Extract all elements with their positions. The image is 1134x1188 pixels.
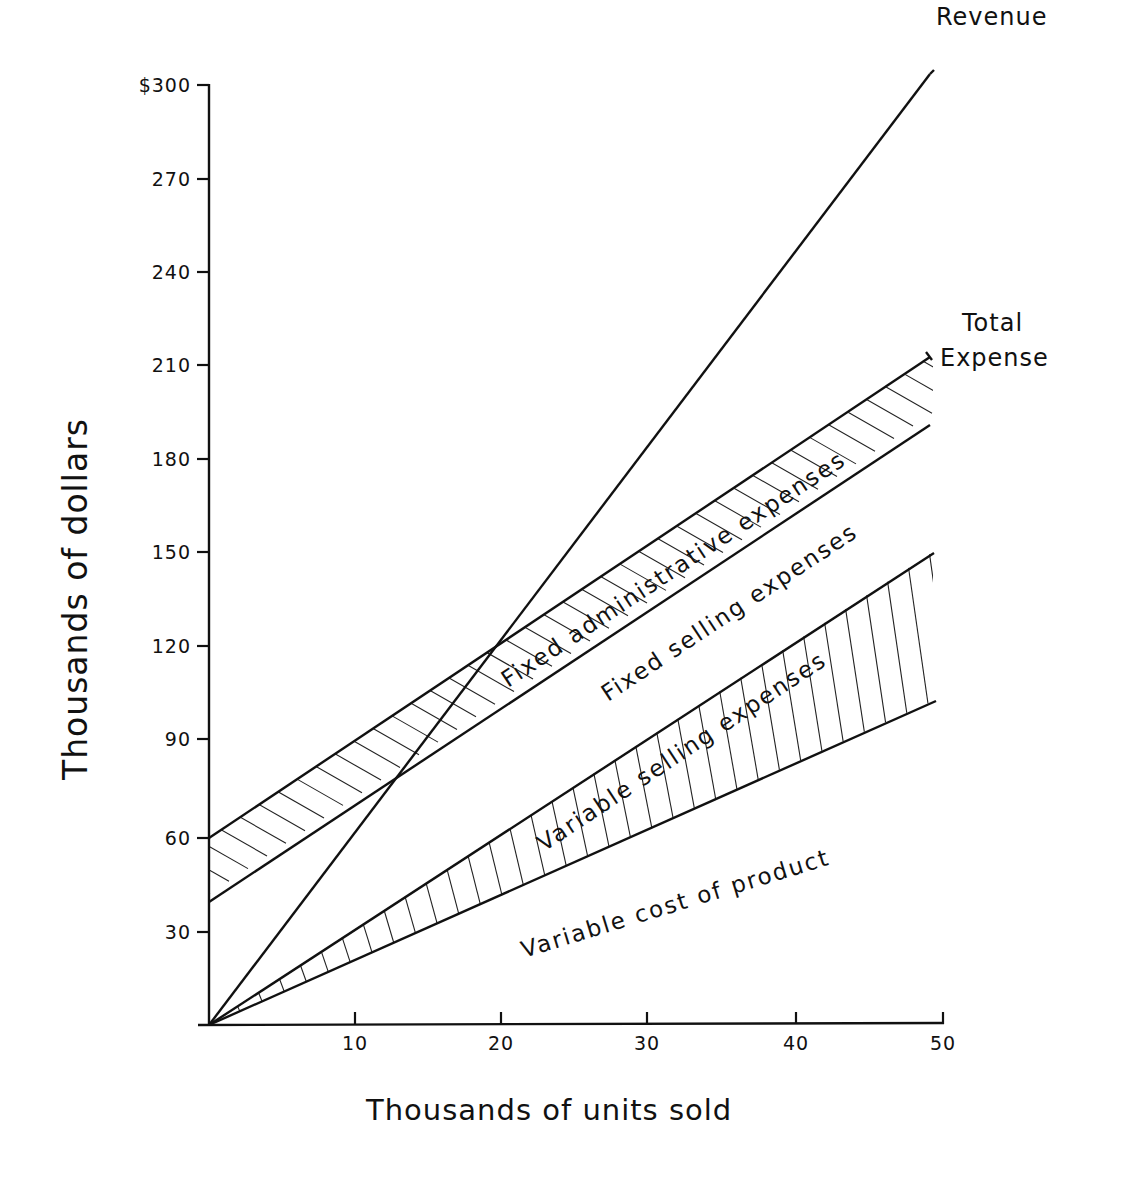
x-axis <box>198 1023 944 1025</box>
y-tick-label: 60 <box>165 827 191 849</box>
total-expense-line <box>209 357 930 838</box>
y-tick-label: 270 <box>152 168 191 190</box>
x-tick-label: 20 <box>488 1032 514 1054</box>
revenue-leader <box>930 70 934 74</box>
break-even-chart: $300270240210180150120906030 1020304050 … <box>0 0 1134 1188</box>
total-expense-label-line1: Total <box>961 309 1023 337</box>
x-tick-label: 40 <box>783 1032 809 1054</box>
variable-selling-label: Variable selling expenses <box>532 646 831 856</box>
y-axis-ticks: $300270240210180150120906030 <box>139 74 209 943</box>
x-axis-ticks: 1020304050 <box>342 1012 956 1054</box>
revenue-label: Revenue <box>936 3 1048 31</box>
total-expense-label-line2: Expense <box>940 344 1049 372</box>
x-tick-label: 10 <box>342 1032 368 1054</box>
y-tick-label: 240 <box>152 261 191 283</box>
y-tick-label: 150 <box>152 541 191 563</box>
y-tick-label: 30 <box>165 921 191 943</box>
y-tick-label: 90 <box>165 728 191 750</box>
y-tick-label: 180 <box>152 448 191 470</box>
x-tick-label: 30 <box>634 1032 660 1054</box>
y-axis-title: Thousands of dollars <box>56 418 95 781</box>
y-tick-label: $300 <box>139 74 191 96</box>
y-tick-label: 120 <box>152 635 191 657</box>
x-tick-label: 50 <box>930 1032 956 1054</box>
y-tick-label: 210 <box>152 354 191 376</box>
x-axis-title: Thousands of units sold <box>365 1093 732 1127</box>
